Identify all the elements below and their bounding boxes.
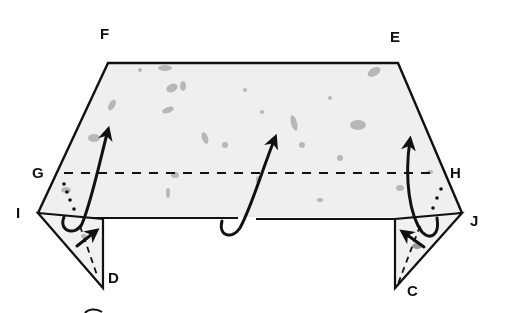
label-C: C [407, 282, 418, 299]
left-flap [38, 213, 103, 288]
partial-next-mark [85, 309, 102, 313]
label-J: J [470, 212, 478, 229]
label-I: I [16, 204, 20, 221]
label-E: E [390, 28, 400, 45]
paper-body [38, 63, 462, 219]
right-flap [395, 213, 462, 288]
label-G: G [32, 164, 44, 181]
label-H: H [450, 164, 461, 181]
label-F: F [100, 25, 109, 42]
origami-diagram: F E G H I J D C [0, 0, 505, 313]
label-D: D [108, 269, 119, 286]
